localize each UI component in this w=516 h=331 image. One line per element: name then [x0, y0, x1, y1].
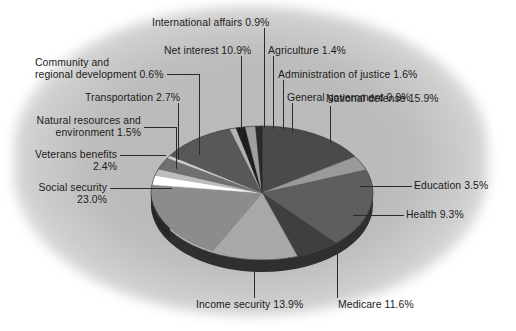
leader-natural-resources-v [176, 127, 177, 169]
leader-national-defense [330, 106, 331, 143]
label-education: Education 3.5% [414, 180, 488, 192]
label-social-security-line1: Social security [0, 182, 107, 194]
label-medicare: Medicare 11.6% [338, 299, 414, 311]
label-social-security-line2: 23.0% [0, 194, 107, 206]
label-veterans-line2: 2.4% [0, 161, 117, 173]
leader-international-affairs [264, 28, 265, 128]
leader-net-interest [241, 56, 242, 138]
leader-administration-of-justice [283, 80, 284, 130]
leader-transportation [178, 103, 179, 160]
leader-natural-resources [144, 127, 177, 128]
label-national-defense: National defense 15.9% [326, 93, 439, 105]
leader-medicare [337, 253, 338, 298]
leader-general-government [292, 103, 293, 133]
label-health: Health 9.3% [406, 209, 464, 221]
label-natural-resources-line2: environment 1.5% [0, 127, 141, 139]
label-transportation: Transportation 2.7% [85, 92, 180, 104]
label-community-line1: Community and [35, 57, 109, 69]
leader-community-v [199, 74, 200, 155]
label-international-affairs: International affairs 0.9% [152, 17, 269, 29]
leader-education [360, 186, 412, 187]
label-agriculture: Agriculture 1.4% [268, 45, 346, 57]
leader-income-security [254, 265, 255, 298]
label-administration-of-justice: Administration of justice 1.6% [278, 69, 417, 81]
label-natural-resources-line1: Natural resources and [0, 115, 141, 127]
label-income-security: Income security 13.9% [196, 299, 303, 311]
leader-agriculture [273, 56, 274, 129]
leader-veterans-benefits [120, 155, 166, 156]
pie-chart-figure: International affairs 0.9% Net interest … [0, 0, 516, 331]
label-community-line2: regional development 0.6% [35, 69, 164, 81]
label-net-interest: Net interest 10.9% [164, 45, 251, 57]
leader-community-h [167, 74, 200, 75]
leader-social-security [110, 188, 172, 189]
label-veterans-line1: Veterans benefits [0, 149, 117, 161]
leader-health [353, 215, 404, 216]
